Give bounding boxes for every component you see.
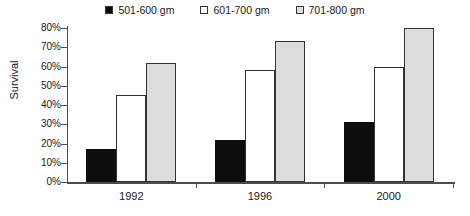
legend-item-701-800-gm: 701-800 gm — [296, 5, 365, 15]
bar-1996-series-2 — [275, 41, 305, 182]
bar-1992-series-1 — [116, 95, 146, 182]
chart-legend: 501-600 gm 601-700 gm 701-800 gm — [0, 5, 470, 15]
y-axis-title: Survival — [8, 20, 20, 140]
x-axis-category-label: 1992 — [67, 190, 196, 202]
x-axis-line — [67, 182, 455, 184]
legend-swatch-icon-series-0 — [105, 6, 113, 14]
legend-swatch-icon-series-1 — [200, 6, 208, 14]
survival-bar-chart: 501-600 gm 601-700 gm 701-800 gm Surviva… — [0, 0, 470, 216]
x-axis-tick — [453, 184, 454, 188]
bar-2000-series-2 — [404, 28, 434, 182]
y-axis-tick-label: 30% — [21, 119, 61, 129]
y-axis-tick-label: 40% — [21, 100, 61, 110]
y-axis-tick-label: 80% — [21, 23, 61, 33]
y-axis-tick-label: 20% — [21, 139, 61, 149]
legend-label-series-0: 501-600 gm — [118, 5, 174, 15]
legend-label-series-1: 601-700 gm — [213, 5, 269, 15]
x-axis-tick — [196, 184, 197, 188]
bar-1992-series-0 — [86, 149, 116, 182]
x-axis-category-label: 1996 — [196, 190, 325, 202]
legend-item-501-600-gm: 501-600 gm — [105, 5, 174, 15]
x-axis-tick — [324, 184, 325, 188]
bar-1996-series-0 — [215, 140, 245, 182]
y-axis-tick-label: 50% — [21, 81, 61, 91]
y-axis-tick-label: 60% — [21, 62, 61, 72]
bar-1992-series-2 — [146, 63, 176, 182]
legend-label-series-2: 701-800 gm — [309, 5, 365, 15]
y-axis-tick-label: 0% — [21, 177, 61, 187]
plot-area — [67, 28, 453, 182]
y-axis-tick — [61, 182, 67, 183]
bar-2000-series-0 — [344, 122, 374, 182]
x-axis-category-label: 2000 — [324, 190, 453, 202]
bar-1996-series-1 — [245, 70, 275, 182]
y-axis-tick-label: 70% — [21, 42, 61, 52]
bar-2000-series-1 — [374, 67, 404, 183]
legend-item-601-700-gm: 601-700 gm — [200, 5, 269, 15]
y-axis-tick-label: 10% — [21, 158, 61, 168]
legend-swatch-icon-series-2 — [296, 6, 304, 14]
